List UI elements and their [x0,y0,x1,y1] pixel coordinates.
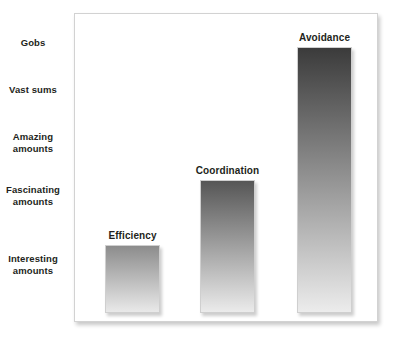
bar-label-coordination: Coordination [174,165,281,176]
y-axis-tick-fascinating-amounts: Fascinating amounts [0,184,67,207]
y-axis-tick-gobs: Gobs [0,37,67,49]
bar-group-coordination[interactable]: Coordination [200,165,255,313]
bar-chart: Gobs Vast sums Amazing amounts Fascinati… [0,0,395,340]
y-axis-tick-interesting-amounts: Interesting amounts [0,253,67,276]
bar-coordination[interactable] [200,180,255,313]
y-tick-label-line2: amounts [0,143,67,155]
y-tick-label-line1: Vast sums [0,84,67,96]
y-tick-label-line1: Gobs [0,37,67,49]
bar-efficiency[interactable] [105,245,160,313]
y-tick-label-line2: amounts [0,265,67,277]
bar-label-efficiency: Efficiency [79,230,186,241]
y-axis-tick-amazing-amounts: Amazing amounts [0,131,67,154]
bar-group-efficiency[interactable]: Efficiency [105,230,160,313]
y-tick-label-line1: Fascinating [0,184,67,196]
bar-label-avoidance: Avoidance [271,32,378,43]
y-axis-tick-vast-sums: Vast sums [0,84,67,96]
bar-avoidance[interactable] [297,47,352,313]
y-axis: Gobs Vast sums Amazing amounts Fascinati… [0,0,72,340]
bar-group-avoidance[interactable]: Avoidance [297,32,352,313]
y-tick-label-line2: amounts [0,196,67,208]
y-tick-label-line1: Amazing [0,131,67,143]
y-tick-label-line1: Interesting [0,253,67,265]
